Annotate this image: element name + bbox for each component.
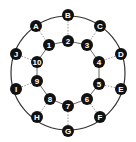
node-G: G bbox=[62, 125, 74, 137]
node-label: B bbox=[65, 11, 71, 20]
node-label: 7 bbox=[66, 102, 71, 111]
node-label: A bbox=[33, 22, 39, 31]
node-B: B bbox=[62, 9, 74, 21]
node-label: H bbox=[34, 113, 40, 122]
node-9: 9 bbox=[31, 75, 43, 87]
spoke-edges bbox=[16, 15, 121, 131]
nodes: ABCDEFGHIJ12345678910 bbox=[10, 9, 127, 137]
node-label: 1 bbox=[47, 41, 52, 50]
node-6: 6 bbox=[81, 93, 93, 105]
node-label: D bbox=[118, 50, 124, 59]
node-label: J bbox=[14, 50, 18, 59]
node-F: F bbox=[94, 111, 106, 123]
node-label: E bbox=[118, 85, 124, 94]
node-10: 10 bbox=[31, 56, 43, 68]
node-label: 4 bbox=[97, 58, 102, 67]
node-label: 10 bbox=[33, 58, 42, 67]
node-H: H bbox=[31, 111, 43, 123]
node-label: C bbox=[97, 22, 103, 31]
node-label: I bbox=[15, 85, 17, 94]
node-J: J bbox=[10, 48, 22, 60]
node-label: 3 bbox=[85, 41, 90, 50]
node-8: 8 bbox=[44, 93, 56, 105]
node-4: 4 bbox=[93, 56, 105, 68]
node-1: 1 bbox=[43, 39, 55, 51]
node-label: F bbox=[98, 113, 103, 122]
node-label: 5 bbox=[97, 80, 102, 89]
node-label: 9 bbox=[35, 77, 40, 86]
node-I: I bbox=[10, 83, 22, 95]
node-label: 2 bbox=[66, 37, 71, 46]
ring-graph-diagram: ABCDEFGHIJ12345678910 bbox=[0, 0, 136, 142]
node-label: G bbox=[65, 127, 71, 136]
node-label: 6 bbox=[85, 95, 90, 104]
node-A: A bbox=[30, 20, 42, 32]
node-2: 2 bbox=[62, 35, 74, 47]
node-7: 7 bbox=[62, 100, 74, 112]
node-C: C bbox=[94, 20, 106, 32]
node-3: 3 bbox=[81, 39, 93, 51]
node-E: E bbox=[115, 83, 127, 95]
node-D: D bbox=[115, 48, 127, 60]
node-label: 8 bbox=[48, 95, 53, 104]
node-5: 5 bbox=[93, 78, 105, 90]
